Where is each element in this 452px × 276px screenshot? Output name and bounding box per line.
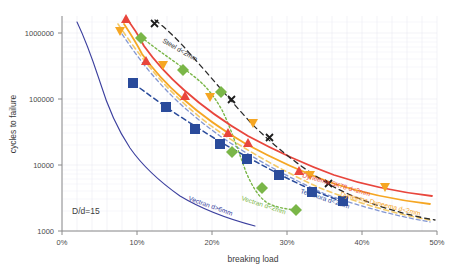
fatigue-chart: 1000 10000 100000 1000000 0% 10% 20% 30%…: [0, 0, 452, 276]
ytick-label-100000: 100000: [29, 95, 54, 104]
xtick-label-50: 50%: [429, 238, 444, 247]
ytick-label-10000: 10000: [33, 161, 54, 170]
y-axis-title: cycles to failure: [8, 94, 18, 153]
xtick-label-20: 20%: [204, 238, 219, 247]
xtick-label-0: 0%: [57, 238, 68, 247]
xtick-label-40: 40%: [354, 238, 369, 247]
dd-ratio-note: D/d=15: [72, 206, 100, 216]
ytick-label-1000: 1000: [37, 227, 54, 236]
ytick-label-1000000: 1000000: [25, 29, 54, 38]
chart-container: 1000 10000 100000 1000000 0% 10% 20% 30%…: [0, 0, 452, 276]
x-axis-title: breaking load: [227, 254, 278, 264]
xtick-label-10: 10%: [129, 238, 144, 247]
xtick-label-30: 30%: [279, 238, 294, 247]
